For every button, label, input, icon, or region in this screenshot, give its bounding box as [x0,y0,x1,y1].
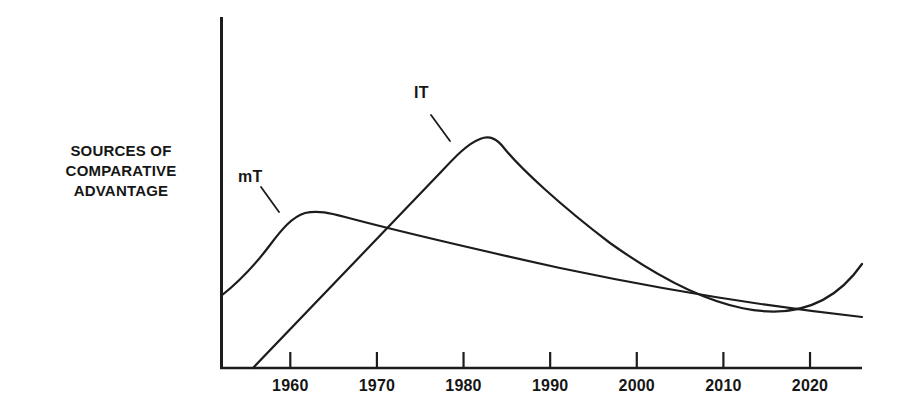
data-curves [221,137,862,368]
x-axis-tick-label-2000: 2000 [602,377,672,395]
leader-line-it [431,115,450,141]
x-axis-ticks [290,352,810,368]
x-axis-tick-label-1960: 1960 [255,377,325,395]
x-axis-tick-label-1990: 1990 [515,377,585,395]
x-axis-tick-label-1980: 1980 [429,377,499,395]
x-axis-tick-label-1970: 1970 [342,377,412,395]
axes-group [220,17,862,368]
annotation-leader-lines [261,115,450,212]
x-axis-tick-label-2010: 2010 [688,377,758,395]
plot-area [0,0,908,420]
x-axis-tick-label-2020: 2020 [775,377,845,395]
leader-line-mt [261,187,279,212]
series-path-it [253,137,862,368]
chart-figure: SOURCES OF COMPARATIVE ADVANTAGE mT IT 1… [0,0,908,420]
